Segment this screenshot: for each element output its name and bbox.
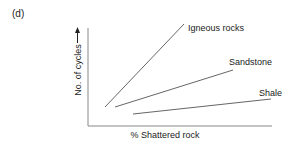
arrow-up-icon: [75, 27, 80, 33]
series-line-igneous-rocks: [105, 24, 184, 107]
panel-label: (d): [12, 8, 24, 19]
x-axis-label: % Shattered rock: [130, 130, 200, 140]
series-label-igneous-rocks: Igneous rocks: [188, 23, 245, 33]
series-label-sandstone: Sandstone: [229, 57, 272, 67]
series-line-shale: [133, 99, 271, 114]
series-lines: Igneous rocksSandstoneShale: [105, 23, 282, 114]
y-axis-label-group: No. of cycles: [73, 27, 83, 96]
y-axis-label: No. of cycles: [73, 44, 83, 96]
series-line-sandstone: [115, 70, 233, 107]
rock-cycles-diagram: (d) No. of cycles % Shattered rock Igneo…: [0, 0, 296, 144]
series-label-shale: Shale: [259, 88, 282, 98]
